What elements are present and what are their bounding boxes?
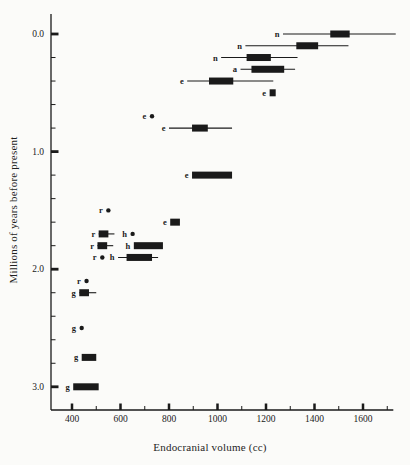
box-marker <box>97 242 107 249</box>
row-group-label: g <box>65 382 70 392</box>
box-marker <box>73 383 98 390</box>
row-group-label: g <box>72 288 77 298</box>
row-group-label: e <box>262 88 266 98</box>
row-group-label: r <box>91 229 95 239</box>
row-group-label: h <box>122 229 127 239</box>
box-marker <box>209 78 233 85</box>
x-major-tick <box>119 404 122 411</box>
x-tick-label: 1600 <box>354 414 373 424</box>
x-major-tick <box>71 404 74 411</box>
y-tick-label: 3.0 <box>32 382 44 392</box>
point-marker <box>150 114 154 118</box>
y-axis-title: Millions of years before present <box>7 110 21 310</box>
x-tick-label: 1200 <box>257 414 276 424</box>
y-major-tick <box>51 33 59 36</box>
row-group-label: r <box>90 241 94 251</box>
x-major-tick <box>265 404 268 411</box>
point-marker <box>84 279 88 283</box>
point-marker <box>106 208 110 212</box>
box-marker <box>99 230 109 237</box>
box-marker <box>170 219 180 226</box>
row-group-label: e <box>180 76 184 86</box>
y-tick-label: 1.0 <box>32 147 44 157</box>
box-marker <box>79 289 89 296</box>
box-marker <box>251 66 284 73</box>
box-marker <box>127 254 152 261</box>
row-group-label: r <box>99 205 103 215</box>
row-group-label: n <box>275 29 280 39</box>
x-tick-label: 400 <box>65 414 80 424</box>
row-group-label: a <box>233 64 238 74</box>
x-axis-title: Endocranial volume (cc) <box>0 441 410 453</box>
x-major-tick <box>168 404 171 411</box>
figure: 40060080010001200140016000.01.02.03.0nnn… <box>0 0 410 465</box>
box-marker <box>330 31 349 38</box>
row-group-label: n <box>213 53 218 63</box>
point-marker <box>80 326 84 330</box>
y-tick-label: 2.0 <box>32 264 44 274</box>
row-group-label: h <box>126 241 131 251</box>
row-group-label: r <box>77 276 81 286</box>
row-group-label: e <box>163 217 167 227</box>
box-marker <box>270 89 276 96</box>
row-group-label: g <box>72 323 77 333</box>
row-group-label: g <box>74 352 79 362</box>
y-major-tick <box>51 150 59 153</box>
x-major-tick <box>362 404 365 411</box>
row-group-label: e <box>162 123 166 133</box>
row-group-label: n <box>237 41 242 51</box>
x-tick-label: 600 <box>113 414 128 424</box>
x-major-tick <box>313 404 316 411</box>
y-tick-label: 0.0 <box>32 29 44 39</box>
y-major-tick <box>51 268 59 271</box>
box-marker <box>247 54 271 61</box>
row-group-label: h <box>110 252 115 262</box>
row-group-label: e <box>143 111 147 121</box>
y-major-tick <box>51 385 59 388</box>
box-marker <box>296 42 318 49</box>
box-marker <box>134 242 163 249</box>
x-tick-label: 800 <box>162 414 177 424</box>
point-marker <box>100 255 104 259</box>
row-group-label: r <box>93 252 97 262</box>
box-marker <box>82 354 97 361</box>
chart-canvas: 40060080010001200140016000.01.02.03.0nnn… <box>0 0 410 465</box>
row-group-label: e <box>185 170 189 180</box>
box-marker <box>192 172 232 179</box>
box-marker <box>192 125 208 132</box>
x-major-tick <box>216 404 219 411</box>
x-tick-label: 1000 <box>208 414 227 424</box>
x-tick-label: 1400 <box>305 414 324 424</box>
point-marker <box>130 232 134 236</box>
